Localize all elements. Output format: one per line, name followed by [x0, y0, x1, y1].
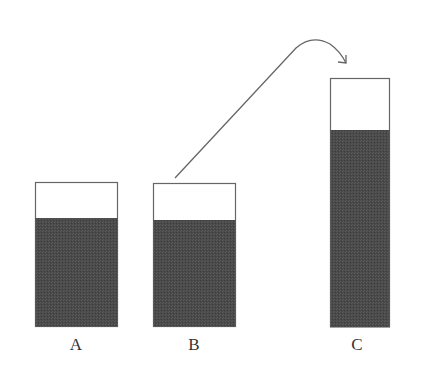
- container-c: C: [331, 79, 390, 355]
- transfer-arrow: [175, 40, 346, 178]
- transfer-diagram: A B C: [0, 0, 421, 375]
- container-a: A: [36, 183, 118, 355]
- container-c-label: C: [351, 335, 362, 354]
- container-a-liquid: [36, 218, 118, 327]
- container-b: B: [154, 184, 236, 355]
- container-b-liquid: [154, 220, 236, 327]
- arrow-curve: [175, 40, 346, 178]
- container-b-label: B: [188, 335, 199, 354]
- container-c-liquid: [331, 130, 390, 327]
- container-a-label: A: [70, 335, 83, 354]
